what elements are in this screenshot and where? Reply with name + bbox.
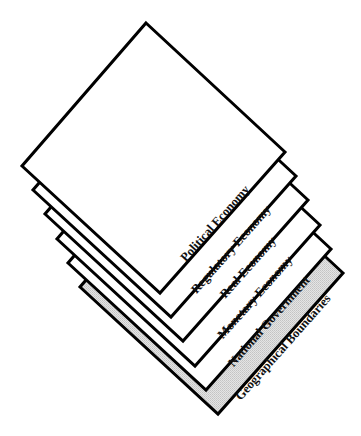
layered-stack-diagram: Political Economy Regulatory Economy Rea… (0, 0, 361, 436)
